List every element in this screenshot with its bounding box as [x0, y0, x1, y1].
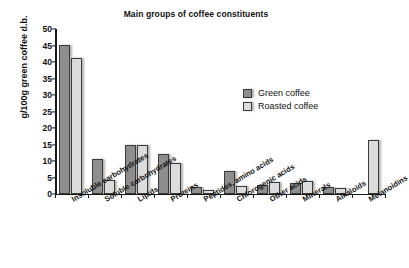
bar-roast	[368, 140, 379, 194]
chart-legend: Green coffeeRoasted coffee	[243, 88, 318, 114]
legend-swatch-green-coffee	[243, 89, 252, 98]
bar-green	[59, 45, 70, 194]
bar-group	[55, 29, 88, 194]
legend-label: Green coffee	[258, 88, 310, 98]
legend-label: Roasted coffee	[258, 101, 318, 111]
legend-item: Green coffee	[243, 88, 318, 98]
bar-group	[319, 29, 352, 194]
chart-title: Main groups of coffee constituents	[0, 9, 392, 19]
plot-area: 05101520253035404550	[55, 29, 385, 194]
bar-group	[352, 29, 385, 194]
y-axis-label: g/100g green coffee d.b.	[19, 0, 29, 137]
legend-swatch-roasted-coffee	[243, 102, 252, 111]
bar-group	[187, 29, 220, 194]
x-axis-tick-mark	[55, 194, 56, 198]
bar-roast	[71, 58, 82, 194]
legend-item: Roasted coffee	[243, 101, 318, 111]
